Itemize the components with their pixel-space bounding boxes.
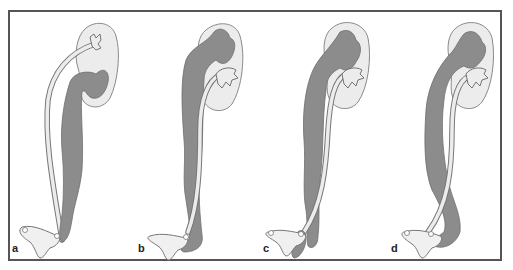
panel-label-b: b xyxy=(138,243,145,254)
panel-label-a: a xyxy=(12,243,18,254)
panel-d xyxy=(402,23,494,258)
duplex-kidney-figure: .kid { fill: #ececec; stroke: #8a8a8a; s… xyxy=(0,0,513,270)
panel-label-c: c xyxy=(263,243,269,254)
panel-b xyxy=(148,24,243,260)
panel-label-d: d xyxy=(391,243,398,254)
panel-c xyxy=(266,23,370,258)
panel-a xyxy=(20,23,119,258)
